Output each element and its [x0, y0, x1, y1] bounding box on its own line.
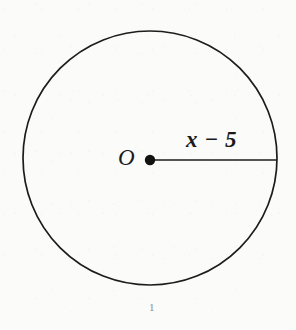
- figure-vector-layer: [0, 0, 296, 330]
- radius-length-label: x − 5: [186, 128, 237, 151]
- circle-center-label: O: [118, 146, 135, 169]
- center-dot: [145, 155, 155, 165]
- geometry-figure-canvas: O x − 5 1: [0, 0, 296, 330]
- page-number-mark: 1: [149, 302, 155, 313]
